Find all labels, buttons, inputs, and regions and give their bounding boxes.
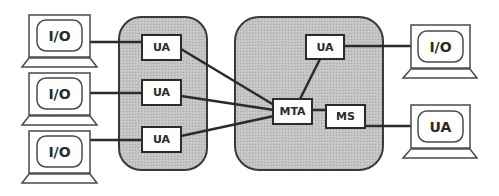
terminal-left-3: I/O <box>22 131 97 183</box>
ua-box-2: UA <box>142 80 181 105</box>
terminal-left-3-label: I/O <box>48 144 70 160</box>
ua-box-right: UA <box>306 35 344 59</box>
ua-box-1-label: UA <box>153 41 171 54</box>
terminal-right-1-label: I/O <box>429 39 451 55</box>
mail-system-diagram: I/O I/O I/O UA UA UA UA MTA MS <box>0 0 499 196</box>
ms-box-label: MS <box>336 110 355 123</box>
ua-box-3-label: UA <box>153 133 171 146</box>
terminal-left-2: I/O <box>22 73 97 125</box>
mta-box-label: MTA <box>279 105 306 118</box>
terminal-right-2: UA <box>403 105 477 158</box>
ua-box-right-label: UA <box>316 41 334 54</box>
terminal-left-1-label: I/O <box>48 28 70 44</box>
terminal-right-1: I/O <box>403 25 477 78</box>
ua-box-3: UA <box>142 127 181 152</box>
ms-box: MS <box>326 105 365 128</box>
terminal-right-2-label: UA <box>430 119 452 135</box>
mta-box: MTA <box>273 99 312 124</box>
ua-box-2-label: UA <box>153 86 171 99</box>
terminal-left-2-label: I/O <box>48 86 70 102</box>
terminal-left-1: I/O <box>22 15 97 67</box>
ua-box-1: UA <box>142 35 181 60</box>
